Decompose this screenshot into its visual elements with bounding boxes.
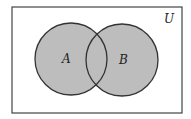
set-b-label: B [118, 53, 128, 67]
venn-diagram: A B U [0, 0, 191, 119]
set-a-label: A [61, 52, 71, 66]
universe-label: U [164, 12, 175, 26]
